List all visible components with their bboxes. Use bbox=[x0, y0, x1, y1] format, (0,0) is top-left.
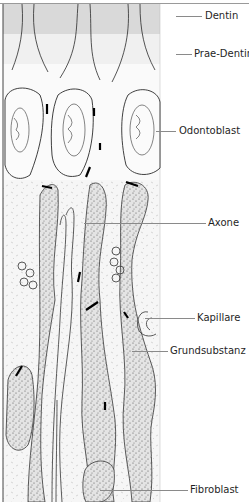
label-odontoblast: Odontoblast bbox=[179, 125, 240, 137]
axone-leader bbox=[84, 223, 206, 224]
pulp-illustration bbox=[0, 0, 249, 502]
odontoblast-leader bbox=[156, 131, 176, 132]
prae-dentin-layer bbox=[3, 34, 160, 64]
label-dentin: Dentin bbox=[205, 10, 238, 22]
label-prae-dentin: Prae-Dentin bbox=[194, 48, 249, 60]
pulp-diagram: Dentin Prae-Dentin Odontoblast Axone Kap… bbox=[0, 0, 249, 502]
label-grundsubstanz: Grundsubstanz bbox=[170, 345, 246, 357]
fibroblast-leader bbox=[100, 490, 188, 491]
dentin-leader bbox=[176, 16, 202, 17]
grundsubstanz-leader bbox=[132, 351, 168, 352]
prae-dentin-leader bbox=[176, 54, 192, 55]
label-axone: Axone bbox=[208, 217, 239, 229]
label-fibroblast: Fibroblast bbox=[190, 484, 239, 496]
dentin-layer bbox=[3, 4, 160, 34]
label-kapillare: Kapillare bbox=[197, 312, 240, 324]
kapillare-leader bbox=[145, 318, 195, 319]
